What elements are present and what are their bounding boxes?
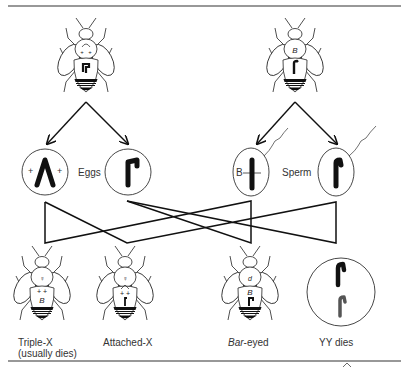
arrow-male-sperm1 [257, 102, 295, 144]
svg-text:B: B [39, 296, 45, 305]
parent-female-fly: + + [53, 18, 119, 92]
parent-male-fly: B [262, 18, 328, 92]
svg-text:♀: ♀ [122, 275, 127, 282]
offspring-bar-eyed-fly: d B [217, 246, 283, 320]
bar-eyed-label-italic: Bar [228, 337, 244, 348]
yy-zygote [307, 258, 375, 326]
svg-text:B: B [247, 288, 253, 297]
offspring-attached-x-fly: ♀ + + [92, 246, 158, 320]
sperm-x-bar [233, 128, 288, 196]
svg-text:+: + [80, 49, 84, 55]
sperm-y [318, 126, 376, 196]
bar-eyed-label-rest: -eyed [244, 337, 269, 348]
sperm-b-label: B [236, 167, 243, 178]
triple-x-note: (usually dies) [18, 348, 77, 359]
attached-x-label: Attached-X [103, 337, 152, 348]
yy-dies-label: YY dies [319, 337, 353, 348]
sperm-label: Sperm [282, 167, 311, 178]
genetic-cross-diagram: + + B ♀ + + [0, 0, 401, 369]
egg-plus-left: + [28, 166, 33, 177]
arrow-female-egg2 [86, 102, 128, 144]
svg-text:B: B [292, 46, 298, 55]
svg-text:+ +: + + [37, 288, 47, 295]
eggs-label: Eggs [78, 167, 101, 178]
cross-lines [45, 201, 336, 243]
arrow-male-sperm2 [295, 102, 337, 144]
cross-line-a [45, 201, 251, 243]
egg-plus-right: + [57, 166, 62, 177]
svg-text:+: + [88, 49, 92, 55]
egg-y-shape [105, 149, 151, 195]
bar-eyed-label: Bar-eyed [228, 337, 269, 348]
svg-text:♀: ♀ [39, 275, 44, 282]
svg-text:+ +: + + [120, 290, 130, 297]
triple-x-label: Triple-X [18, 337, 53, 348]
offspring-triple-x-fly: ♀ + + B [9, 246, 75, 320]
arrow-female-egg1 [47, 102, 86, 144]
caret-up-icon [343, 363, 351, 367]
